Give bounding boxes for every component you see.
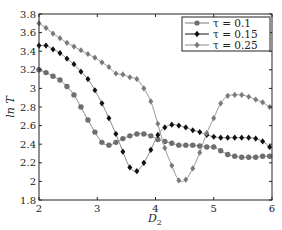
data-point bbox=[190, 142, 195, 147]
x-tick-label: 5 bbox=[211, 203, 217, 214]
data-point bbox=[134, 131, 139, 136]
data-point bbox=[106, 142, 111, 147]
y-axis-label: ln T bbox=[4, 95, 17, 118]
y-tick-label: 3.4 bbox=[20, 46, 36, 57]
data-point bbox=[176, 142, 181, 147]
line-chart: 234561.822.22.42.62.833.23.43.63.8 D2 ln… bbox=[0, 0, 282, 230]
data-point bbox=[204, 144, 209, 149]
data-point bbox=[148, 133, 153, 138]
data-point bbox=[99, 140, 104, 145]
data-point bbox=[239, 155, 244, 160]
y-tick-label: 2.4 bbox=[20, 139, 36, 150]
data-point bbox=[64, 84, 69, 89]
data-point bbox=[260, 154, 265, 159]
data-point bbox=[232, 154, 237, 159]
data-point bbox=[246, 155, 251, 160]
data-point bbox=[211, 144, 216, 149]
legend-label: τ = 0.25 bbox=[213, 39, 258, 51]
legend: τ = 0.1 τ = 0.15 τ = 0.25 bbox=[182, 17, 270, 52]
data-point bbox=[127, 133, 132, 138]
x-tick-label: 6 bbox=[269, 203, 275, 214]
data-point bbox=[183, 142, 188, 147]
circle-marker-icon bbox=[194, 20, 199, 25]
data-point bbox=[141, 131, 146, 136]
data-point bbox=[50, 74, 55, 79]
data-point bbox=[253, 155, 258, 160]
x-tick-label: 3 bbox=[94, 203, 100, 214]
data-point bbox=[120, 136, 125, 141]
y-tick-label: 3.6 bbox=[20, 27, 36, 38]
y-tick-label: 2.8 bbox=[20, 102, 36, 113]
data-point bbox=[71, 92, 76, 97]
data-point bbox=[113, 140, 118, 145]
data-point bbox=[225, 152, 230, 157]
data-point bbox=[169, 141, 174, 146]
y-tick-label: 2.6 bbox=[20, 120, 36, 131]
data-point bbox=[218, 148, 223, 153]
y-tick-label: 2 bbox=[30, 176, 36, 187]
x-tick-label: 2 bbox=[36, 203, 42, 214]
data-point bbox=[92, 129, 97, 134]
y-tick-label: 2.2 bbox=[20, 157, 36, 168]
y-tick-label: 3 bbox=[30, 83, 36, 94]
y-tick-label: 3.2 bbox=[20, 64, 36, 75]
y-tick-label: 1.8 bbox=[20, 195, 36, 206]
y-tick-label: 3.8 bbox=[20, 9, 36, 20]
data-point bbox=[43, 70, 48, 75]
data-point bbox=[57, 77, 62, 82]
data-point bbox=[85, 117, 90, 122]
data-point bbox=[78, 104, 83, 109]
